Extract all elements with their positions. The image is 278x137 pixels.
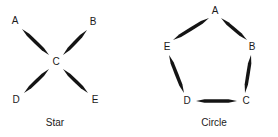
circle-node-label-E: E: [160, 42, 174, 52]
diagram-panel-circle: A B C D E Circle: [139, 0, 278, 137]
circle-panel-caption: Circle: [154, 117, 274, 128]
circle-node-label-C: C: [239, 96, 253, 106]
star-edge-D-C: [24, 69, 49, 93]
circle-node-label-D: D: [180, 96, 194, 106]
diagram-panel-star: A B C D E Star: [0, 0, 139, 137]
star-edge-A-C: [22, 29, 49, 55]
star-node-label-E: E: [88, 95, 102, 105]
figure-root: A B C D E Star A B C D E Circle: [0, 0, 278, 137]
star-node-label-A: A: [8, 16, 22, 26]
star-node-label-C: C: [49, 57, 63, 67]
star-panel-caption: Star: [0, 117, 115, 128]
star-node-label-B: B: [86, 17, 100, 27]
circle-edge-A-B: [221, 18, 247, 40]
circle-node-label-A: A: [208, 6, 222, 16]
star-edge-B-C: [63, 30, 87, 55]
circle-edge-D-C: [196, 99, 237, 103]
circle-edge-B-C: [245, 55, 252, 93]
star-edge-E-C: [63, 69, 88, 93]
circle-edge-E-D: [169, 55, 184, 93]
circle-edge-A-E: [173, 18, 209, 40]
circle-node-label-B: B: [245, 42, 259, 52]
star-node-label-D: D: [9, 95, 23, 105]
